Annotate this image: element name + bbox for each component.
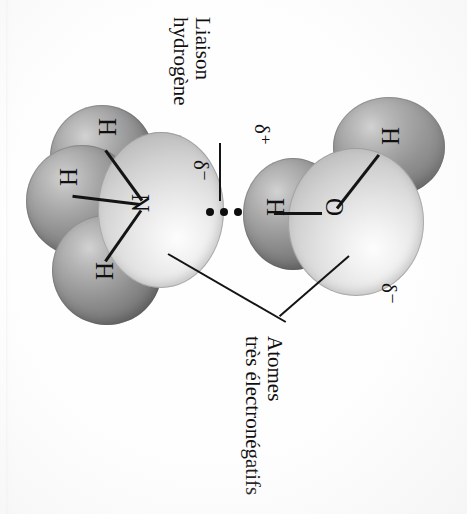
callout-electronegative-line2: très électronégatifs — [242, 336, 263, 495]
callout-electronegative-line1: Atomes — [264, 336, 285, 401]
scan-edge-artifact — [6, 0, 9, 514]
atom-rim — [288, 148, 424, 296]
atom-label-water-h-upper: H — [378, 127, 403, 145]
callout-leader-hydrogen-bond — [219, 143, 221, 201]
hydrogen-bond-dot — [234, 208, 242, 216]
atom-sphere-oxygen — [288, 148, 424, 296]
atom-label-ammonia-h-left: H — [56, 168, 81, 186]
charge-label-nitrogen-delta-negative: δ⁻ — [190, 160, 211, 181]
hydrogen-bond-dot — [220, 208, 228, 216]
hydrogen-bond-dot — [206, 208, 214, 216]
callout-hydrogen-bond-line2: hydrogène — [170, 17, 191, 106]
atom-label-ammonia-h-bottom: H — [92, 262, 117, 280]
atom-label-water-h-lower: H — [263, 198, 288, 216]
charge-label-oxygen-delta-negative: δ⁻ — [378, 283, 399, 304]
charge-label-hydrogen-delta-positive: δ⁺ — [251, 124, 272, 145]
atom-label-ammonia-h-top: H — [95, 118, 120, 136]
atom-label-nitrogen: N — [128, 194, 153, 212]
figure-canvas: H H H N H H O Liaiso — [0, 0, 467, 514]
atom-label-oxygen: O — [322, 198, 347, 216]
callout-leader-to-nitrogen — [168, 253, 287, 323]
callout-hydrogen-bond-line1: Liaison — [192, 17, 213, 80]
